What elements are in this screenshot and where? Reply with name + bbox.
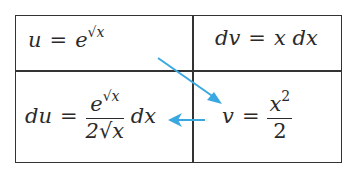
arrows-overlay [0, 0, 358, 172]
left-arrow-icon [168, 113, 205, 127]
diagonal-arrow-icon [158, 58, 222, 104]
